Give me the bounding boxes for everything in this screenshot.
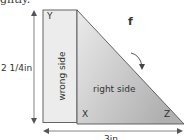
corner-label-y: Y <box>47 11 53 21</box>
width-dimension-label: 3in <box>104 134 118 140</box>
height-dimension-label: 2 1/4in <box>1 63 32 73</box>
wrong-side-label: wrong side <box>57 50 67 102</box>
step-label-f: f <box>128 15 133 28</box>
fold-arrow-icon <box>131 53 145 70</box>
corner-label-x: X <box>82 109 88 119</box>
right-side-label: right side <box>93 84 135 94</box>
corner-label-z: Z <box>164 109 170 119</box>
